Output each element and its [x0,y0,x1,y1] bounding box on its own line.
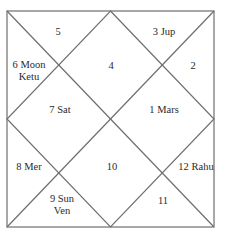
house-4: 4 [108,60,113,72]
house-9-label-line2: Ven [50,205,74,217]
house-1: 1 Mars [149,104,178,116]
house-3-label: 3 Jup [153,26,175,38]
house-8-label: 8 Mer [16,161,41,173]
house-7-label: 7 Sat [49,104,70,116]
house-11-label: 11 [158,195,168,207]
house-2-label: 2 [190,60,195,72]
house-4-label: 4 [108,60,113,72]
house-12: 12 Rahu [178,161,213,173]
house-9: 9 Sun Ven [50,193,74,217]
house-5-label: 5 [55,26,60,38]
house-6: 6 Moon Ketu [13,59,46,83]
house-8: 8 Mer [16,161,41,173]
house-10: 10 [107,161,118,173]
horoscope-chart: 5 3 Jup 4 6 Moon Ketu 2 7 Sat 1 Mars 8 M… [0,0,226,233]
house-11: 11 [158,195,168,207]
house-2: 2 [190,60,195,72]
house-7: 7 Sat [49,104,70,116]
house-10-label: 10 [107,161,118,173]
house-6-label-line2: Ketu [13,71,46,83]
chart-lines [0,0,226,233]
house-5: 5 [55,26,60,38]
house-3: 3 Jup [153,26,175,38]
house-6-label-line1: 6 Moon [13,59,46,71]
house-1-label: 1 Mars [149,104,178,116]
house-9-label-line1: 9 Sun [50,193,74,205]
house-12-label: 12 Rahu [178,161,213,173]
